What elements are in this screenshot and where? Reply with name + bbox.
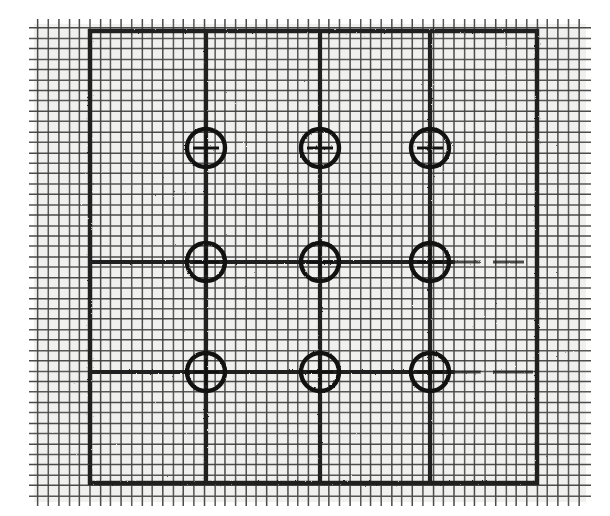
paper-grain-overlay [34, 24, 586, 502]
scanned-figure-page [0, 0, 610, 516]
figure-canvas [0, 0, 610, 516]
